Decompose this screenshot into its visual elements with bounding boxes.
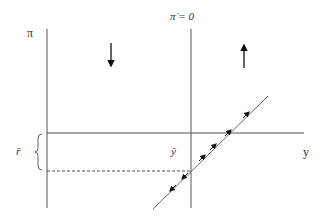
x-axis-label: y (303, 146, 309, 158)
phase-diagram: π π̇ = 0 r̄ ȳ y (0, 0, 324, 219)
brace-icon (35, 134, 42, 170)
r-bar-label: r̄ (16, 146, 20, 157)
path-arrow-up-right-icon (199, 155, 205, 161)
y-axis-label: π (27, 27, 33, 39)
path-arrow-up-right-icon (210, 144, 216, 150)
path-arrow-down-left-icon (170, 185, 176, 191)
diagram-canvas (0, 0, 324, 219)
locus-label: π̇ = 0 (170, 11, 194, 22)
y-bar-label: ȳ (171, 146, 176, 157)
